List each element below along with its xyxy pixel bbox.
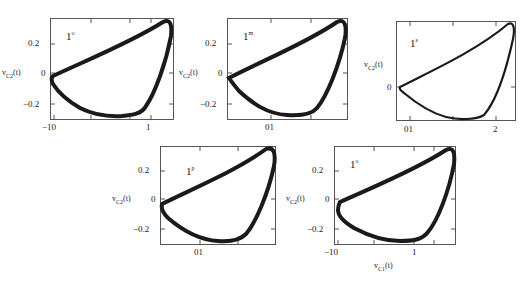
xtick-label: 1 <box>146 123 151 132</box>
y-axis-label: vC2(t) <box>364 61 383 71</box>
phase-plot-panel-4: 1p 0.2 0 −0.2 01 vC2(t) <box>160 146 276 245</box>
panel-tag: 1m <box>243 30 253 42</box>
panel-tag: 1o <box>350 158 359 170</box>
panel-tag: 1s <box>410 37 418 49</box>
ytick-label: 0 <box>325 195 330 204</box>
y-axis-label: vC2(t) <box>112 195 131 205</box>
ytick-label: 0 <box>387 83 392 92</box>
ytick-label: −0.2 <box>200 100 216 109</box>
xtick-label: 1 <box>412 248 417 257</box>
ytick-label: −0.2 <box>133 225 149 234</box>
ytick-label: −0.2 <box>23 100 39 109</box>
ytick-label: 0 <box>41 69 46 78</box>
xtick-label: 01 <box>265 123 274 132</box>
x-axis-label: vC1(t) <box>374 262 393 272</box>
ytick-label: 0.2 <box>312 166 323 175</box>
y-axis-label: vC2(t) <box>286 195 305 205</box>
plot-area <box>396 21 516 121</box>
xtick-label: 01 <box>404 125 413 134</box>
xtick-label: 2 <box>493 125 498 134</box>
ytick-label: 0 <box>151 195 156 204</box>
phase-plot-panel-2: 1m 0.2 0 −0.2 01 vC2(t) <box>227 18 348 120</box>
ytick-label: 0.2 <box>28 39 39 48</box>
y-axis-label: vC2(t) <box>179 69 198 79</box>
plot-area <box>160 146 276 245</box>
panel-tag: 1o <box>66 30 75 42</box>
ytick-label: −0.2 <box>307 225 323 234</box>
xtick-label: 01 <box>194 248 203 257</box>
ytick-label: 0.2 <box>205 39 216 48</box>
phase-plot-panel-1: 1o 0.2 0 −0.2 −10 1 vC2(t) <box>50 18 174 120</box>
xtick-label: −10 <box>42 123 56 132</box>
panel-tag: 1p <box>186 165 195 177</box>
ytick-label: 0 <box>218 69 223 78</box>
ytick-label: 0.2 <box>138 166 149 175</box>
y-axis-label: vC2(t) <box>2 69 21 79</box>
xtick-label: −10 <box>324 248 338 257</box>
limit-cycle-trajectory <box>162 148 275 241</box>
phase-plot-panel-3: 1s 0 01 2 vC2(t) <box>396 21 516 121</box>
phase-plot-panel-5: 1o 0.2 0 −0.2 −10 1 vC2(t) vC1(t) <box>334 146 456 245</box>
